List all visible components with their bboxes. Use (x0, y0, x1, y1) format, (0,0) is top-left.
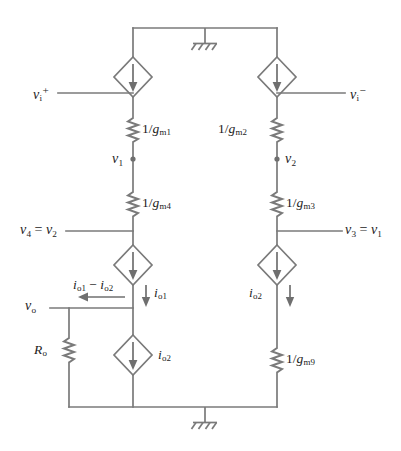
resistor-rm2 (272, 118, 282, 142)
ground-bottom-icon (192, 423, 218, 430)
ground-top-icon (192, 44, 218, 51)
label-resistor-rm9: 1/gm9 (286, 352, 315, 367)
label-v3-equals-v1: v3 = v1 (345, 223, 382, 239)
label-resistor-ro: Ro (34, 343, 47, 358)
current-arrow-io1-minus-io2 (78, 293, 125, 302)
circuit-canvas (0, 0, 401, 451)
src-top-left (114, 57, 152, 97)
resistor-ro (64, 338, 74, 363)
resistor-rm3 (272, 192, 282, 217)
label-current-io1: io1 (154, 286, 167, 301)
label-input-minus: vi− (350, 85, 366, 104)
label-current-io1-minus-io2: io1 − io2 (73, 278, 113, 293)
circuit-diagram: vi+ vi− 1/gm1 1/gm2 v1 v2 1/gm4 1/gm3 v4… (0, 0, 401, 451)
resistor-rm1 (128, 118, 138, 142)
label-v-out: vo (25, 299, 36, 315)
label-node-v1: v1 (112, 152, 123, 168)
resistor-rm4 (128, 192, 138, 217)
label-resistor-rm4: 1/gm4 (142, 196, 171, 211)
label-resistor-rm1: 1/gm1 (142, 122, 171, 137)
node-dot-v1 (130, 156, 135, 161)
label-v4-equals-v2: v4 = v2 (20, 223, 57, 239)
src-mid-left (114, 245, 152, 285)
label-resistor-rm3: 1/gm3 (286, 196, 315, 211)
src-mid-right (258, 245, 296, 285)
label-current-io2-left: io2 (158, 348, 171, 363)
label-input-plus: vi+ (33, 85, 49, 104)
label-node-v2: v2 (285, 152, 296, 168)
node-dot-v2 (274, 156, 279, 161)
label-resistor-rm2: 1/gm2 (218, 122, 247, 137)
current-arrow-io2-right (286, 285, 294, 307)
src-bottom-left (114, 335, 152, 375)
resistor-rm9 (272, 348, 282, 373)
src-top-right (258, 57, 296, 97)
label-current-io2-right: io2 (249, 286, 262, 301)
current-arrow-io1 (142, 285, 150, 307)
